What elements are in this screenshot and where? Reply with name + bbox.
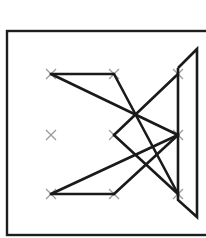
pattern-diagram bbox=[0, 0, 206, 238]
pattern-strokes bbox=[51, 74, 178, 194]
pattern-segment bbox=[114, 74, 178, 135]
pattern-segment bbox=[51, 74, 178, 135]
node-x-mark-icon bbox=[46, 130, 56, 140]
pattern-segment bbox=[51, 135, 178, 194]
pattern-segment bbox=[114, 74, 178, 194]
